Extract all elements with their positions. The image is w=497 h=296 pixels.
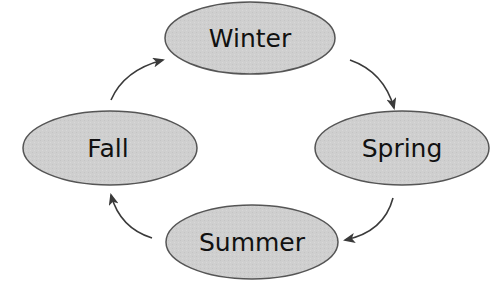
arrow-winter-to-spring <box>350 60 394 108</box>
node-label-summer: Summer <box>199 228 306 257</box>
arrow-fall-to-winter <box>111 60 163 100</box>
node-label-fall: Fall <box>87 134 128 163</box>
node-fall: Fall <box>23 111 197 185</box>
arrow-summer-to-fall <box>111 195 152 238</box>
seasons-cycle-diagram: Winter Spring Summer Fall <box>0 0 497 296</box>
node-label-spring: Spring <box>362 134 443 163</box>
node-label-winter: Winter <box>209 24 292 53</box>
node-winter: Winter <box>165 2 335 74</box>
node-summer: Summer <box>166 205 338 279</box>
node-spring: Spring <box>315 111 489 185</box>
diagram-svg: Winter Spring Summer Fall <box>0 0 497 296</box>
arrow-spring-to-summer <box>345 198 393 240</box>
